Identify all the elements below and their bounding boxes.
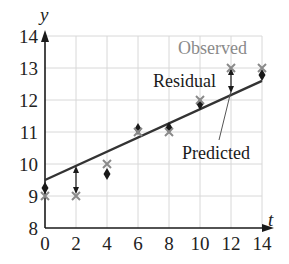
residual-label: Residual xyxy=(153,71,216,91)
y-tick: 13 xyxy=(19,58,38,79)
y-tick-labels: 8 9 10 11 12 13 14 xyxy=(19,26,39,239)
y-tick: 14 xyxy=(19,26,39,47)
x-tick: 2 xyxy=(71,233,81,254)
x-tick: 12 xyxy=(222,233,241,254)
y-tick: 9 xyxy=(29,186,39,207)
y-tick: 12 xyxy=(19,90,38,111)
x-axis-label: t xyxy=(268,209,274,230)
y-tick: 10 xyxy=(19,154,38,175)
x-tick: 8 xyxy=(164,233,174,254)
x-tick: 6 xyxy=(133,233,143,254)
x-tick: 14 xyxy=(253,233,273,254)
x-tick: 4 xyxy=(102,233,112,254)
x-tick-labels: 0 2 4 6 8 10 12 14 xyxy=(40,233,272,254)
y-tick: 8 xyxy=(29,218,39,239)
x-tick: 10 xyxy=(191,233,210,254)
grid xyxy=(45,36,262,228)
observed-label: Observed xyxy=(178,38,247,58)
y-axis-label: y xyxy=(38,4,49,25)
x-tick: 0 xyxy=(40,233,50,254)
residual-plot: y t 8 9 10 11 12 13 14 0 2 4 6 8 10 12 1… xyxy=(0,0,289,264)
predicted-label: Predicted xyxy=(182,143,250,163)
y-tick: 11 xyxy=(20,122,38,143)
